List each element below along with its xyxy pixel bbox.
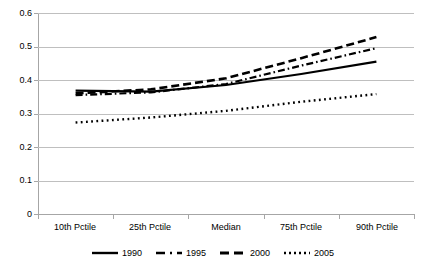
gridline: [38, 181, 414, 182]
legend-label-2000: 2000: [250, 248, 270, 258]
x-tick-label-75th-pctile: 75th Pctile: [258, 222, 344, 233]
legend-entry-1995: 1995: [156, 248, 206, 258]
legend-label-1995: 1995: [186, 248, 206, 258]
plot-area: [38, 13, 414, 214]
gridline: [38, 80, 414, 81]
x-tick-label-90th-pctile: 90th Pctile: [334, 222, 420, 233]
legend-label-2005: 2005: [314, 248, 334, 258]
x-tick-mark: [188, 214, 189, 219]
gridline: [38, 13, 414, 14]
legend-swatch-solid: [92, 248, 118, 258]
gridline: [38, 47, 414, 48]
legend-entry-1990: 1990: [92, 248, 142, 258]
x-tick-mark: [339, 214, 340, 219]
y-tick-label: 0: [2, 210, 32, 219]
y-tick-label: 0.2: [2, 143, 32, 152]
chart-container: 0.6 0.5 0.4 0.3 0.2 0.1 0 10th Pctile 25…: [0, 0, 426, 274]
gridline: [38, 147, 414, 148]
chart-legend: 1990 1995 2000 2005: [0, 248, 426, 258]
x-tick-mark: [414, 214, 415, 219]
y-tick-label: 0.4: [2, 76, 32, 85]
gridline: [38, 114, 414, 115]
x-tick-mark: [113, 214, 114, 219]
x-tick-label-25th-pctile: 25th Pctile: [107, 222, 193, 233]
legend-entry-2005: 2005: [284, 248, 334, 258]
x-tick-mark: [38, 214, 39, 219]
y-tick-label: 0.5: [2, 42, 32, 51]
legend-swatch-dashed: [220, 248, 246, 258]
legend-entry-2000: 2000: [220, 248, 270, 258]
x-tick-mark: [264, 214, 265, 219]
x-tick-label-10th-pctile: 10th Pctile: [32, 222, 118, 233]
legend-swatch-dash-dot: [156, 248, 182, 258]
x-axis-line: [38, 214, 414, 215]
legend-swatch-dotted: [284, 248, 310, 258]
legend-label-1990: 1990: [122, 248, 142, 258]
y-tick-label: 0.6: [2, 9, 32, 18]
y-tick-label: 0.1: [2, 176, 32, 185]
x-tick-label-median: Median: [183, 222, 269, 233]
y-tick-label: 0.3: [2, 109, 32, 118]
